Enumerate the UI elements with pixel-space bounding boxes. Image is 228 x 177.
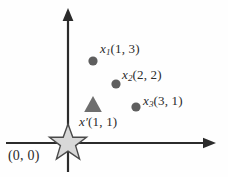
data-point-x1: [88, 56, 97, 65]
origin-label: (0, 0): [8, 149, 40, 163]
point-label-xprime-coords: (1, 1): [88, 114, 117, 129]
point-label-xprime: x′(1, 1): [79, 115, 117, 128]
point-label-x3: x3(3, 1): [143, 94, 183, 109]
data-point-x3: [131, 102, 140, 111]
scatter-plot-figure: x1(1, 3) x2(2, 2) x3(3, 1) x′(1, 1) (0, …: [0, 0, 228, 177]
point-label-x2-coords: (2, 2): [132, 67, 161, 82]
point-label-x3-coords: (3, 1): [153, 93, 182, 108]
point-label-x1: x1(1, 3): [100, 42, 140, 57]
point-label-x1-coords: (1, 3): [110, 41, 139, 56]
x-axis: [6, 138, 216, 148]
point-label-xprime-var: x′: [79, 114, 88, 129]
y-axis-arrowhead: [63, 8, 74, 21]
data-point-x2: [111, 79, 120, 88]
data-point-xprime-triangle: [84, 96, 102, 112]
x-axis-arrowhead: [203, 138, 216, 148]
point-label-x2: x2(2, 2): [122, 68, 162, 83]
